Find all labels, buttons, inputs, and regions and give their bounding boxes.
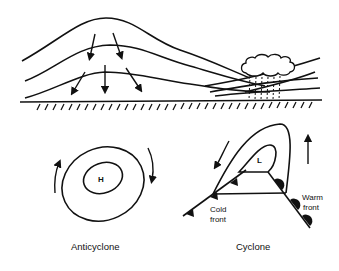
- cyclone-caption: Cyclone: [236, 241, 270, 252]
- warm-front-label-1: Warm: [302, 193, 323, 202]
- isobar-curve-middle: [25, 45, 265, 86]
- ground-hatching: [37, 102, 312, 110]
- cross-section-panel: [20, 18, 322, 110]
- arrow-down-icon: [126, 68, 140, 89]
- arrow-down-icon: [90, 34, 95, 57]
- warm-front-label-2: front: [303, 203, 320, 212]
- weather-systems-diagram: H Anticyclone L Cold front Warm front Cy…: [0, 0, 339, 271]
- arrow-down-icon: [148, 148, 153, 180]
- arrow-down-icon: [73, 72, 85, 92]
- anticyclone-caption: Anticyclone: [71, 241, 120, 252]
- low-pressure-label: L: [257, 156, 262, 165]
- high-pressure-label: H: [98, 175, 104, 184]
- anticyclone-outer-isobar: [50, 134, 157, 235]
- arrow-down-icon: [216, 141, 229, 166]
- cold-front-label-1: Cold: [210, 205, 226, 214]
- cloud-icon: [242, 54, 295, 76]
- arrow-up-icon: [55, 163, 59, 193]
- cyclone-panel: [183, 124, 310, 228]
- occluded-line: [213, 193, 286, 194]
- anticyclone-panel: [50, 134, 157, 235]
- ground-line: [20, 100, 322, 102]
- subsiding-air-arrows: [73, 33, 140, 92]
- cold-front-label-2: front: [210, 215, 227, 224]
